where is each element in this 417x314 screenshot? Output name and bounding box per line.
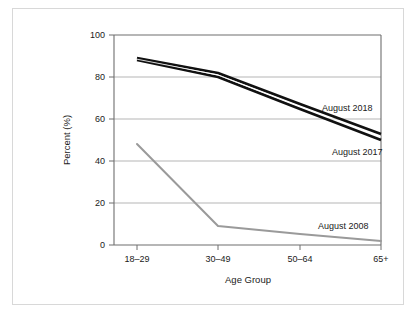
x-axis-ticks bbox=[137, 245, 381, 250]
plot-area-background bbox=[114, 35, 381, 245]
xtick-label-18-29: 18–29 bbox=[124, 254, 149, 264]
series-label-august-2008: August 2008 bbox=[318, 221, 369, 231]
xtick-label-50-64: 50–64 bbox=[287, 254, 312, 264]
ytick-label-40: 40 bbox=[95, 156, 105, 166]
xtick-label-65-plus: 65+ bbox=[373, 254, 388, 264]
ytick-label-60: 60 bbox=[95, 114, 105, 124]
x-axis-title: Age Group bbox=[225, 274, 271, 285]
line-chart: 0 20 40 60 80 100 18–29 30–49 50–64 65+ … bbox=[0, 0, 417, 314]
ytick-label-100: 100 bbox=[90, 30, 105, 40]
y-axis-title: Percent (%) bbox=[61, 115, 72, 165]
ytick-label-80: 80 bbox=[95, 72, 105, 82]
x-axis-tick-labels: 18–29 30–49 50–64 65+ bbox=[124, 254, 388, 264]
xtick-label-30-49: 30–49 bbox=[205, 254, 230, 264]
y-axis-ticks bbox=[109, 35, 114, 245]
y-axis-tick-labels: 0 20 40 60 80 100 bbox=[90, 30, 105, 250]
chart-figure: 0 20 40 60 80 100 18–29 30–49 50–64 65+ … bbox=[0, 0, 417, 314]
ytick-label-0: 0 bbox=[100, 240, 105, 250]
series-label-august-2018: August 2018 bbox=[322, 103, 373, 113]
ytick-label-20: 20 bbox=[95, 198, 105, 208]
series-label-august-2017: August 2017 bbox=[332, 147, 383, 157]
